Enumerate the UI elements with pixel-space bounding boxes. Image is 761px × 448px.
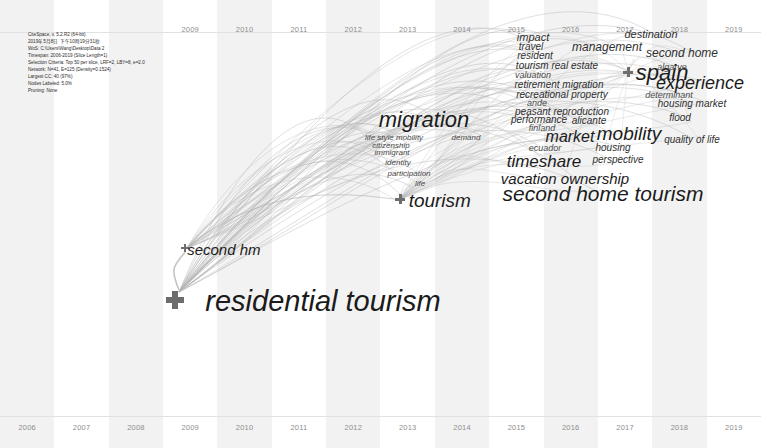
axis-year-2010: 2010 (236, 423, 254, 432)
term-label[interactable]: immigrant (374, 149, 409, 157)
node-marker[interactable] (166, 291, 184, 309)
term-label[interactable]: participation (387, 170, 430, 178)
node-marker[interactable] (623, 67, 633, 77)
term-label[interactable]: perspective (592, 155, 643, 165)
info-line-1: 2019年5月8日 下午10時19分31秒 (28, 39, 145, 46)
term-label[interactable]: destination (624, 29, 677, 40)
term-label[interactable]: second home (646, 47, 718, 59)
axis-year-2014: 2014 (453, 423, 471, 432)
term-label[interactable]: second hm (187, 242, 260, 257)
axis-year-2019: 2019 (725, 423, 743, 432)
term-label[interactable]: identity (385, 159, 410, 167)
axis-year-2016: 2016 (562, 25, 580, 34)
axis-year-2011: 2011 (290, 25, 307, 34)
term-label[interactable]: housing (595, 143, 630, 153)
term-label[interactable]: life (415, 180, 425, 188)
axis-year-2011: 2011 (290, 423, 307, 432)
axis-year-2007: 2007 (73, 423, 91, 432)
term-label[interactable]: timeshare (507, 153, 582, 170)
term-label[interactable]: residential tourism (205, 287, 440, 316)
axis-year-2018: 2018 (671, 423, 689, 432)
axis-year-2015: 2015 (508, 423, 526, 432)
axis-year-2008: 2008 (127, 423, 145, 432)
term-label[interactable]: housing market (658, 99, 726, 109)
info-line-2: WoS: C:\Users\Wang\Desktop\Data 2 (28, 46, 145, 53)
term-label[interactable]: second home tourism (503, 183, 704, 204)
term-label[interactable]: quality of life (664, 135, 720, 145)
network-edge (179, 118, 378, 292)
axis-year-2009: 2009 (182, 25, 200, 34)
info-line-6: Largest CC: 40 (97%) (28, 74, 145, 81)
term-label[interactable]: algarve (657, 63, 687, 72)
axis-year-2013: 2013 (399, 25, 417, 34)
term-label[interactable]: flood (669, 113, 691, 123)
info-line-3: Timespan: 2006-2019 (Slice Length=1) (28, 53, 145, 60)
network-edge (179, 63, 543, 292)
axis-year-2016: 2016 (562, 423, 580, 432)
term-label[interactable]: management (572, 41, 642, 53)
info-line-5: Network: N=41, E=125 (Density=0.1524) (28, 67, 145, 74)
axis-year-2010: 2010 (236, 25, 254, 34)
axis-year-2017: 2017 (616, 423, 634, 432)
axis-year-2019: 2019 (725, 25, 743, 34)
term-label[interactable]: migration (379, 109, 469, 131)
term-label[interactable]: demand (452, 134, 481, 142)
info-line-7: Nodes Labeled: 5.0% (28, 81, 145, 88)
network-edge (179, 146, 396, 292)
axis-year-2012: 2012 (345, 25, 363, 34)
info-line-0: CiteSpace, v. 5.2.R2 (64-bit) (28, 32, 145, 39)
info-line-8: Pruning: None (28, 88, 145, 95)
axis-year-2006: 2006 (18, 423, 36, 432)
term-label[interactable]: mobility (597, 124, 661, 143)
axis-year-2013: 2013 (399, 423, 417, 432)
axis-year-2009: 2009 (182, 423, 200, 432)
axis-year-2012: 2012 (345, 423, 363, 432)
info-panel: CiteSpace, v. 5.2.R2 (64-bit)2019年5月8日 下… (28, 32, 145, 95)
info-line-4: Selection Criteria: Top 50 per slice, LR… (28, 60, 145, 67)
citespace-canvas: 2009201020112012201320142015201620172018… (0, 0, 761, 448)
node-marker[interactable] (395, 194, 405, 204)
term-label[interactable]: tourism (409, 191, 471, 210)
axis-year-2014: 2014 (453, 25, 471, 34)
